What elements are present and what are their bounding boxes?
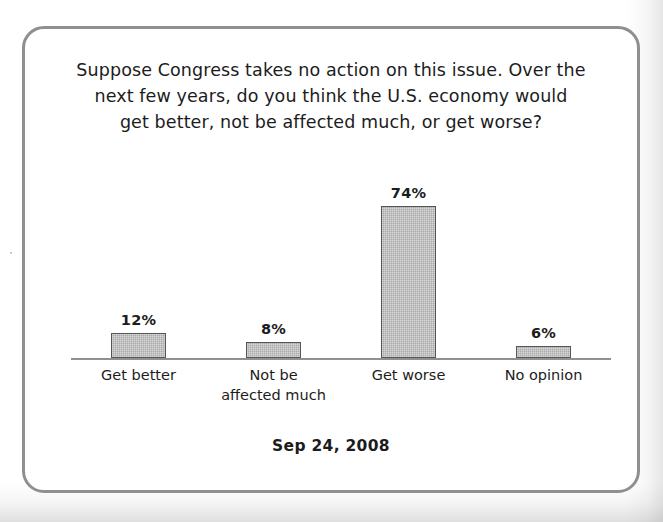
bar-series: 12% 8% 74% 6%	[71, 69, 611, 358]
bar-value-get-better: 12%	[71, 312, 206, 328]
bar-value-get-worse: 74%	[341, 185, 476, 201]
x-label-get-better: Get better	[71, 365, 206, 405]
x-label-get-worse: Get worse	[341, 365, 476, 405]
x-label-no-opinion: No opinion	[476, 365, 611, 405]
bar-slot-get-worse: 74%	[341, 69, 476, 358]
chart-card: Suppose Congress takes no action on this…	[22, 26, 640, 493]
chart-footnote-date: Sep 24, 2008	[53, 437, 609, 455]
bar-no-opinion	[516, 346, 571, 358]
x-label-get-worse-line-1: Get worse	[341, 365, 476, 385]
x-label-get-better-line-1: Get better	[71, 365, 206, 385]
x-label-not-be-affected-much-line-1: Not be	[206, 365, 341, 385]
x-label-not-be-affected-much-line-2: affected much	[206, 385, 341, 405]
scan-speck	[10, 252, 12, 254]
plot-area: 12% 8% 74% 6%	[71, 69, 611, 360]
bar-get-worse	[381, 206, 436, 358]
x-axis-baseline	[71, 358, 611, 360]
bar-slot-get-better: 12%	[71, 69, 206, 358]
bar-slot-not-be-affected-much: 8%	[206, 69, 341, 358]
bar-not-be-affected-much	[246, 342, 301, 358]
bar-slot-no-opinion: 6%	[476, 69, 611, 358]
x-label-no-opinion-line-1: No opinion	[476, 365, 611, 385]
x-label-not-be-affected-much: Not be affected much	[206, 365, 341, 405]
bar-get-better	[111, 333, 166, 358]
bar-value-not-be-affected-much: 8%	[206, 321, 341, 337]
x-axis-labels: Get better Not be affected much Get wors…	[71, 365, 611, 405]
bar-value-no-opinion: 6%	[476, 325, 611, 341]
